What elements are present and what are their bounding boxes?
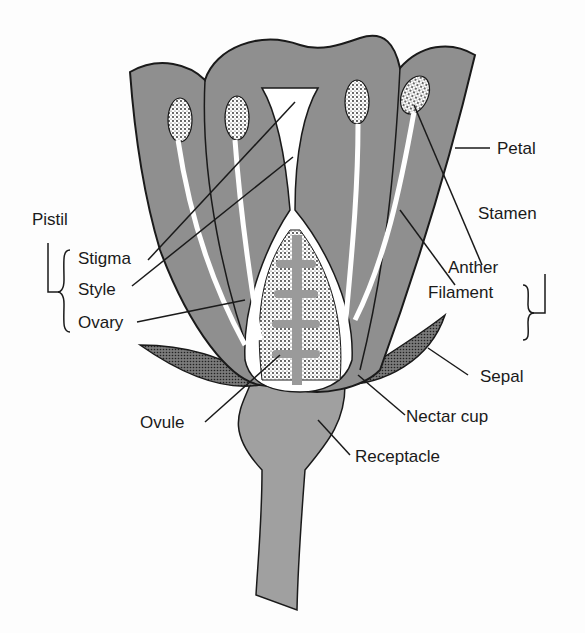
- label-petal: Petal: [497, 139, 536, 158]
- label-ovary: Ovary: [78, 313, 124, 332]
- label-stigma: Stigma: [78, 249, 131, 268]
- label-pistil: Pistil: [32, 210, 68, 229]
- label-nectar-cup: Nectar cup: [406, 407, 488, 426]
- label-anther: Anther: [448, 258, 498, 277]
- label-ovule: Ovule: [140, 413, 184, 432]
- label-filament: Filament: [428, 283, 493, 302]
- label-stamen: Stamen: [478, 204, 537, 223]
- label-style: Style: [78, 280, 116, 299]
- receptacle-shape: [238, 385, 345, 610]
- label-receptacle: Receptacle: [355, 447, 440, 466]
- label-sepal: Sepal: [480, 367, 523, 386]
- flower-diagram: Petal Stamen Anther Filament Pistil Stig…: [0, 0, 585, 633]
